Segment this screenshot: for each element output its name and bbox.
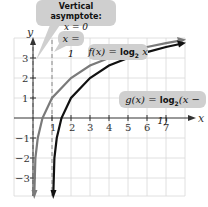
f-name: f(x) = (88, 46, 120, 57)
y-tick-1: 1 (22, 93, 28, 104)
y-tick-neg1: −1 (15, 133, 30, 144)
f-label-callout: f(x) = log2 x (88, 44, 148, 60)
asymptote-callout: Vertical asymptote: x = 0 (36, 0, 116, 26)
y-tick-neg2: −2 (15, 153, 30, 164)
g-name: g(x) = (125, 94, 160, 105)
f-arg: x (139, 46, 148, 57)
x-tick-4: 4 (106, 122, 112, 133)
y-tick-2: 2 (22, 73, 28, 84)
x-tick-2: 2 (69, 122, 75, 133)
x-tick-6: 6 (144, 122, 150, 133)
f-log: log (120, 47, 135, 57)
y-axis-label: y (26, 26, 34, 39)
curve-f-down-arrow-icon (32, 190, 38, 199)
curve-g-down-arrow-icon (51, 190, 57, 199)
x-tick-5: 5 (125, 122, 131, 133)
g-log: log (160, 95, 175, 105)
x-tick-1: 1 (50, 122, 56, 133)
x1-callout: x = 1 (58, 31, 84, 46)
x-tick-3: 3 (87, 122, 93, 133)
g-label-callout: g(x) = log2(x − 1) (119, 91, 206, 108)
asymptote-title: Vertical asymptote: (36, 2, 116, 22)
y-tick-3: 3 (22, 53, 28, 64)
y-tick-neg3: −3 (15, 173, 30, 184)
x-axis-arrow-icon (188, 115, 196, 121)
x-axis-label: x (198, 112, 205, 125)
